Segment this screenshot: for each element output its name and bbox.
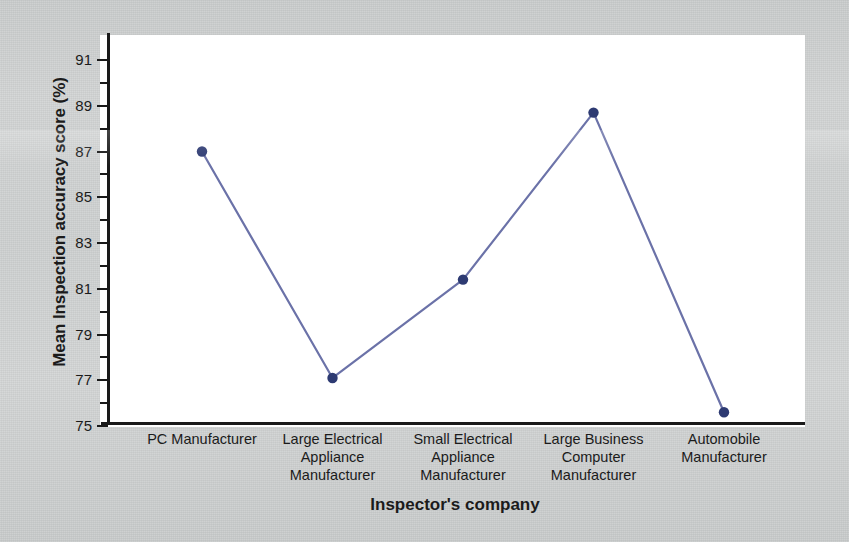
series-line	[202, 113, 724, 413]
scanned-page-background: Mean Inspection accuracy score (%) 75777…	[0, 0, 849, 542]
x-tick-label-line: Appliance	[258, 448, 408, 466]
data-point-marker	[588, 107, 598, 117]
x-axis-title: Inspector's company	[100, 495, 810, 515]
x-tick-label-line: Manufacturer	[388, 466, 538, 484]
x-tick-label-line: Automobile	[649, 430, 799, 448]
data-point-marker	[719, 407, 729, 417]
x-tick-label-line: Computer	[519, 448, 669, 466]
data-point-marker	[458, 274, 468, 284]
x-tick-label: Large BusinessComputerManufacturer	[519, 430, 669, 484]
line-chart-figure: Mean Inspection accuracy score (%) 75777…	[0, 0, 849, 542]
x-tick-label: Large ElectricalApplianceManufacturer	[258, 430, 408, 484]
x-tick-label-line: Manufacturer	[258, 466, 408, 484]
x-tick-label: AutomobileManufacturer	[649, 430, 799, 466]
x-tick-label: PC Manufacturer	[127, 430, 277, 448]
data-point-marker	[327, 373, 337, 383]
x-tick-label-line: Small Electrical	[388, 430, 538, 448]
x-tick-label-line: Appliance	[388, 448, 538, 466]
x-tick-label-line: Manufacturer	[519, 466, 669, 484]
x-tick-label: Small ElectricalApplianceManufacturer	[388, 430, 538, 484]
data-point-marker	[197, 146, 207, 156]
x-tick-label-line: PC Manufacturer	[127, 430, 277, 448]
x-tick-label-line: Manufacturer	[649, 448, 799, 466]
series-markers	[197, 107, 729, 417]
x-tick-label-line: Large Business	[519, 430, 669, 448]
x-tick-label-line: Large Electrical	[258, 430, 408, 448]
